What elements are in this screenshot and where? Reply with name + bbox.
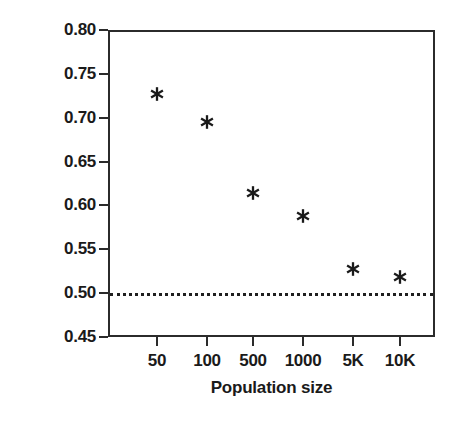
x-axis-tick-mark [206,337,208,346]
y-axis-tick-mark [99,204,108,206]
y-axis-tick-mark [99,29,108,31]
reference-line [110,293,433,296]
y-axis-tick-label: 0.80 [44,21,96,39]
y-axis-tick-label: 0.55 [44,240,96,258]
data-point [245,185,261,201]
y-axis-title: Average strategy [14,0,44,30]
y-axis-tick-label-text: 0.70 [64,109,96,126]
y-axis-tick-mark [99,117,108,119]
y-axis-tick-label-text: 0.80 [64,21,96,38]
y-axis-tick-label-text: 0.55 [64,240,96,257]
y-axis-tick-label-text: 0.45 [64,328,96,345]
y-axis-tick-label: 0.45 [44,328,96,346]
plot-area [108,30,435,337]
y-axis-tick-label: 0.50 [44,284,96,302]
data-point [345,261,361,277]
chart-figure: Average strategy 0.800.750.700.650.600.5… [0,0,471,426]
x-axis-tick-mark [252,337,254,346]
y-axis-title-container: Average strategy [14,30,44,337]
x-axis-tick-mark [352,337,354,346]
y-axis-tick-label: 0.70 [44,109,96,127]
y-axis-tick-label: 0.60 [44,196,96,214]
data-point [392,269,408,285]
data-point [149,86,165,102]
data-point [295,208,311,224]
y-axis-tick-label: 0.65 [44,153,96,171]
y-axis-tick-label-text: 0.75 [64,65,96,82]
y-axis-tick-mark [99,161,108,163]
y-axis-tick-label-text: 0.50 [64,284,96,301]
data-point [199,114,215,130]
x-axis-title: Population size [108,378,435,398]
y-axis-tick-mark [99,336,108,338]
y-axis-tick-mark [99,248,108,250]
x-axis-tick-label: 10K [365,352,435,369]
y-axis-tick-label: 0.75 [44,65,96,83]
y-axis-tick-mark [99,292,108,294]
x-axis-tick-mark [156,337,158,346]
y-axis-tick-label-text: 0.65 [64,153,96,170]
y-axis-tick-label-text: 0.60 [64,196,96,213]
x-axis-tick-mark [399,337,401,346]
x-axis-tick-mark [302,337,304,346]
y-axis-tick-mark [99,73,108,75]
